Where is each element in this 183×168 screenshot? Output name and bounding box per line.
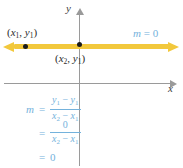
slope-fraction-2-numerator: 0 <box>61 120 70 132</box>
line-slope-variable: m <box>133 27 141 39</box>
y-axis-label: y <box>66 2 71 14</box>
horizontal-slope-line <box>14 44 169 49</box>
numer-minus: − <box>60 94 71 105</box>
point-1-close-paren: ) <box>33 26 37 38</box>
slope-fraction-2: 0 x2 − x1 <box>50 120 81 146</box>
point-2-close-paren: ) <box>81 52 85 64</box>
plotted-point-2 <box>77 42 82 47</box>
line-slope-value: 0 <box>153 27 159 39</box>
x-axis-line <box>4 83 172 84</box>
slope-result-value: 0 <box>50 151 56 163</box>
slope-zero-figure: x y (x1, y1) (x2, y1) m = 0 m = y1 − y1 … <box>0 0 183 168</box>
line-arrowhead-right-icon <box>168 42 179 52</box>
x-axis-label: x <box>168 82 173 94</box>
slope-work-equals-1: = <box>34 103 50 115</box>
line-slope-annotation: m = 0 <box>133 27 158 39</box>
slope-computation-block: m = y1 − y1 x2 − x1 = 0 x2 − x1 = 0 <box>18 97 81 168</box>
point-2-coordinate-label: (x2, y1) <box>55 52 85 66</box>
slope-fraction-1-numerator: y1 − y1 <box>50 95 81 108</box>
denom2-right-sub: 1 <box>75 138 79 146</box>
slope-computation-row-3: = 0 <box>18 145 81 168</box>
line-arrowhead-left-icon <box>3 42 14 52</box>
denom2-minus: − <box>60 133 71 144</box>
slope-computation-row-1: m = y1 − y1 x2 − x1 <box>18 97 81 121</box>
slope-work-variable: m <box>18 103 34 115</box>
slope-work-equals-2: = <box>34 127 50 139</box>
numer-right-sub: 1 <box>75 99 79 107</box>
y-axis-arrowhead-icon <box>76 8 84 15</box>
point-1-coordinate-label: (x1, y1) <box>7 26 37 40</box>
slope-computation-row-2: = 0 x2 − x1 <box>18 121 81 145</box>
plotted-point-1 <box>23 44 28 49</box>
slope-work-equals-3: = <box>34 151 50 163</box>
slope-fraction-2-denominator: x2 − x1 <box>50 133 81 146</box>
